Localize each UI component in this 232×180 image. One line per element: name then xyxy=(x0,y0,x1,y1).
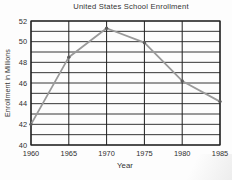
x-tick-label: 1975 xyxy=(136,149,152,158)
data-point xyxy=(29,123,32,126)
data-point xyxy=(143,41,146,44)
data-line xyxy=(31,28,220,124)
y-tick-label: 44 xyxy=(19,99,27,108)
x-tick-label: 1960 xyxy=(23,149,39,158)
enrollment-chart: United States School Enrollment Enrollme… xyxy=(0,0,232,180)
y-tick-label: 42 xyxy=(19,120,27,129)
data-point xyxy=(105,27,108,30)
y-tick-label: 52 xyxy=(19,17,27,26)
x-tick-label: 1980 xyxy=(174,149,190,158)
data-point xyxy=(218,100,221,103)
y-tick-label: 46 xyxy=(19,79,27,88)
x-tick-label: 1970 xyxy=(98,149,114,158)
chart-canvas: 40424446485052196019651970197519801985 xyxy=(0,0,232,180)
data-point xyxy=(181,79,184,82)
data-point xyxy=(67,55,70,58)
x-tick-label: 1985 xyxy=(212,149,228,158)
y-tick-label: 48 xyxy=(19,58,27,67)
x-axis-title: Year xyxy=(75,161,175,170)
y-tick-label: 50 xyxy=(19,37,27,46)
x-tick-label: 1965 xyxy=(61,149,77,158)
